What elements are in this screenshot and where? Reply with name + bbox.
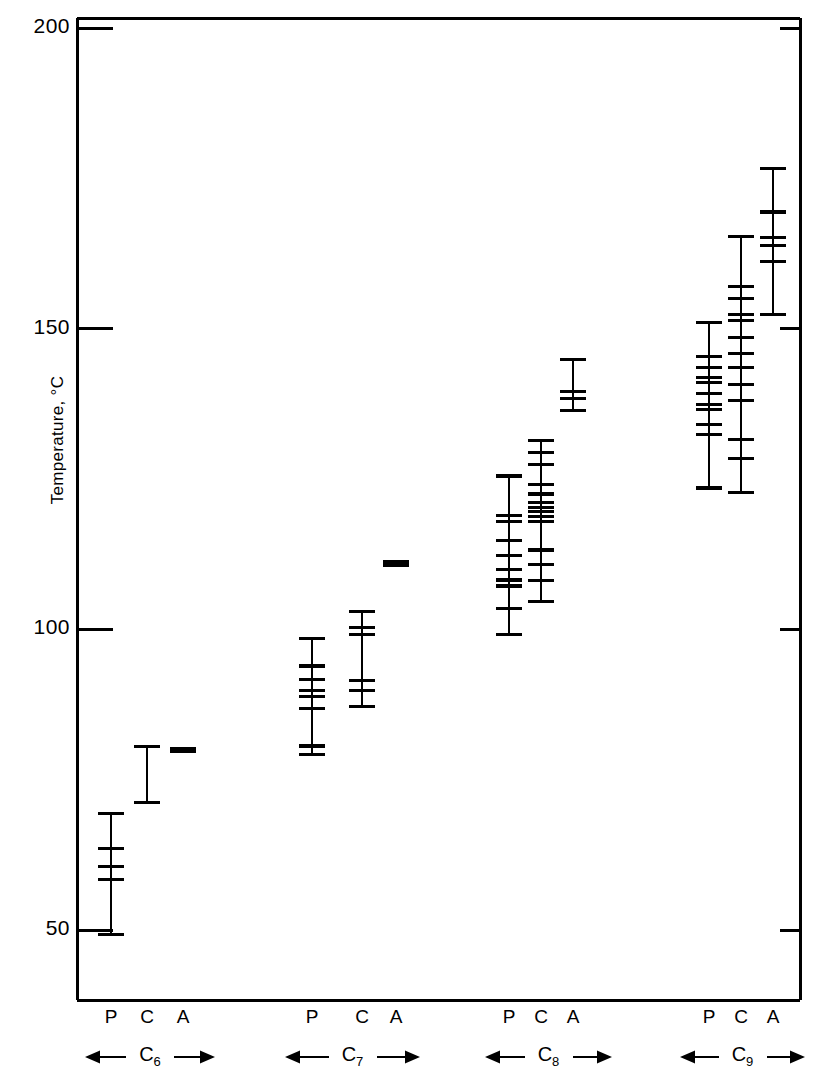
x-group-label-base: C bbox=[538, 1043, 552, 1065]
x-subcategory-label-C6-A: A bbox=[168, 1006, 198, 1028]
x-subcategory-label-C8-P: P bbox=[494, 1006, 524, 1028]
x-subcategory-label-C9-A: A bbox=[758, 1006, 788, 1028]
x-group-label-subscript: 9 bbox=[746, 1054, 753, 1069]
group-arrowhead-left-C9 bbox=[680, 1051, 695, 1064]
group-arrowhead-right-C9 bbox=[790, 1051, 805, 1064]
x-group-label-base: C bbox=[732, 1043, 746, 1065]
x-subcategory-label-C7-P: P bbox=[297, 1006, 327, 1028]
group-arrowhead-left-C8 bbox=[485, 1051, 500, 1064]
group-arrowhead-right-C8 bbox=[597, 1051, 612, 1064]
x-subcategory-label-C9-P: P bbox=[694, 1006, 724, 1028]
x-group-label-subscript: 8 bbox=[552, 1054, 559, 1069]
x-subcategory-label-C6-P: P bbox=[96, 1006, 126, 1028]
x-subcategory-label-C7-C: C bbox=[347, 1006, 377, 1028]
x-subcategory-label-C9-C: C bbox=[726, 1006, 756, 1028]
group-arrowhead-right-C6 bbox=[200, 1051, 215, 1064]
x-group-label-C7: C7 bbox=[329, 1043, 377, 1069]
group-arrowhead-right-C7 bbox=[405, 1051, 420, 1064]
x-group-label-base: C bbox=[139, 1043, 153, 1065]
x-group-label-C8: C8 bbox=[525, 1043, 573, 1069]
x-group-label-subscript: 6 bbox=[154, 1054, 161, 1069]
x-group-label-C9: C9 bbox=[719, 1043, 767, 1069]
chart-canvas: Temperature, °C 200 150 100 50 PCAPCAPCA… bbox=[0, 0, 814, 1081]
x-group-label-C6: C6 bbox=[126, 1043, 174, 1069]
x-subcategory-label-C8-C: C bbox=[526, 1006, 556, 1028]
group-arrowhead-left-C7 bbox=[285, 1051, 300, 1064]
x-subcategory-label-C7-A: A bbox=[381, 1006, 411, 1028]
group-arrowhead-left-C6 bbox=[85, 1051, 100, 1064]
x-subcategory-label-C8-A: A bbox=[558, 1006, 588, 1028]
x-group-label-subscript: 7 bbox=[356, 1054, 363, 1069]
x-subcategory-label-C6-C: C bbox=[132, 1006, 162, 1028]
plot-area bbox=[0, 0, 814, 1081]
x-group-label-base: C bbox=[342, 1043, 356, 1065]
